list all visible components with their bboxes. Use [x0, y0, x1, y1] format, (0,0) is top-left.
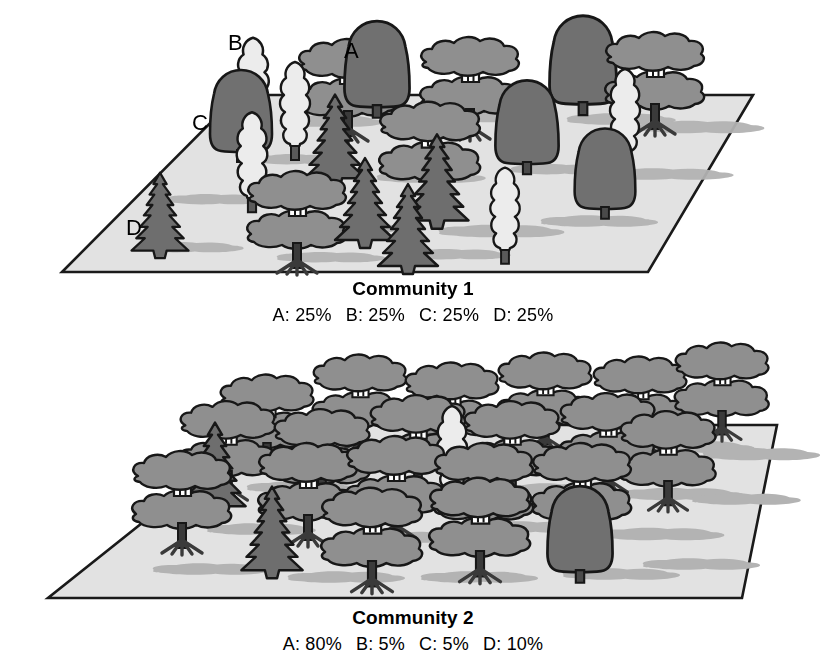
composition-item-a: A: 25% [273, 305, 332, 325]
panel-title-community-2: Community 2 [0, 607, 826, 629]
panel-community-1: B A C D Community 1 A: 25%B: 25%C: 25%D:… [0, 0, 826, 340]
tree-species-c [547, 486, 612, 583]
panel-title-community-1: Community 1 [0, 278, 826, 300]
tree-species-c [495, 80, 558, 174]
community-1-scene: B A C D [0, 0, 826, 300]
community-2-scene [0, 340, 826, 610]
panel-composition-community-1: A: 25%B: 25%C: 25%D: 25% [0, 305, 826, 326]
panel-community-2: Community 2 A: 80%B: 5%C: 5%D: 10% [0, 340, 826, 670]
tree-species-c [344, 21, 409, 118]
composition-item-d: D: 25% [493, 305, 553, 325]
composition-item-c: C: 5% [419, 634, 469, 654]
species-marker-d: D [126, 215, 142, 240]
forest-community-figure: B A C D Community 1 A: 25%B: 25%C: 25%D:… [0, 0, 826, 670]
panel-composition-community-2: A: 80%B: 5%C: 5%D: 10% [0, 634, 826, 655]
species-marker-c: C [192, 110, 208, 135]
composition-item-d: D: 10% [483, 634, 543, 654]
composition-item-c: C: 25% [419, 305, 479, 325]
species-marker-a: A [344, 38, 359, 63]
composition-item-b: B: 25% [346, 305, 405, 325]
tree-species-c [575, 129, 636, 219]
species-marker-b: B [228, 30, 243, 55]
composition-item-a: A: 80% [283, 634, 342, 654]
composition-item-b: B: 5% [356, 634, 405, 654]
